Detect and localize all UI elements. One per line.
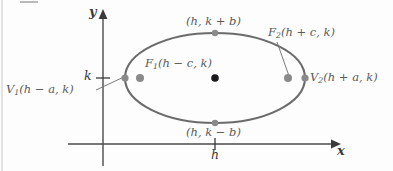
label-vertex-right: V2(h + a, k) bbox=[310, 72, 378, 85]
point-co-vertex-top bbox=[212, 30, 218, 36]
label-focus-left: F1(h − c, k) bbox=[145, 58, 212, 71]
label-bottom-co-vertex: (h, k − b) bbox=[186, 127, 241, 139]
label-focus-right-coords: (h + c, k) bbox=[281, 25, 335, 39]
x-axis-tick-label-h: h bbox=[211, 149, 219, 162]
point-focus-right bbox=[284, 74, 292, 82]
label-top-co-vertex: (h, k + b) bbox=[186, 16, 241, 28]
label-focus-right: F2(h + c, k) bbox=[268, 27, 335, 40]
label-focus-left-coords: (h − c, k) bbox=[158, 56, 212, 70]
point-focus-left bbox=[136, 74, 144, 82]
focus-right-leader-line bbox=[277, 42, 289, 76]
y-axis-tick-label-k: k bbox=[84, 70, 92, 83]
point-vertex-right bbox=[301, 74, 308, 81]
label-vertex-left: V1(h − a, k) bbox=[6, 84, 74, 97]
y-axis-label: y bbox=[89, 5, 97, 18]
label-focus-right-name: F bbox=[268, 25, 276, 39]
ellipse-figure: (h, k + b) (h, k − b) F1(h − c, k) F2(h … bbox=[0, 0, 393, 171]
y-axis-arrowhead bbox=[99, 9, 108, 19]
point-center bbox=[211, 74, 219, 82]
x-axis-label: x bbox=[337, 144, 345, 157]
label-focus-left-name: F bbox=[145, 56, 153, 70]
label-vertex-right-coords: (h + a, k) bbox=[323, 70, 377, 84]
point-vertex-left bbox=[121, 74, 128, 81]
label-vertex-left-coords: (h − a, k) bbox=[19, 82, 73, 96]
